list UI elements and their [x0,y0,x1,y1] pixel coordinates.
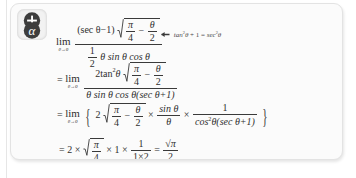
one-value-4: 1 [114,144,119,155]
page-root: α lim θ→0 (sec θ−1) [0,0,356,178]
pi-over-4-3: π 4 [112,105,121,128]
radical-2: π 4 − θ 2 [123,62,166,87]
open-bracket-3: { [85,106,90,126]
equals-sign-2: = [57,74,63,85]
one-over-cos-3: 1 cos2θ(sec θ+1) [193,103,257,127]
theta-over-2-3: θ 2 [134,105,143,128]
cos-denominator-3: cos2θ(sec θ+1) [193,115,257,127]
radical-hook-icon-1 [117,18,124,43]
radical-4: π 4 [83,138,104,160]
theta-den-1: 2 [148,32,157,43]
alpha-plus-badge-icon[interactable]: α [17,9,47,40]
coefficient-3: 2 [95,109,100,120]
identity-lhs-var: θ [185,31,188,39]
identity-annotation: tan2θ + 1 = sec2θ [161,31,221,40]
lim-word-3: lim [65,108,80,119]
left-margin-rule [6,0,7,178]
radicand-minus-3: − [124,110,130,121]
pi-num-2: π [132,64,141,76]
main-fraction-2: 2tan2θ π 4 − [84,62,176,100]
lim-subscript-1: θ→0 [56,47,71,52]
denominator-trig-1: θ sin θ cos θ [100,51,150,62]
equals-sign-3: = [57,109,63,120]
theta-den-2: 2 [154,76,163,87]
theta-num-2: θ [154,64,163,76]
times-sign-3a: × [148,109,154,120]
coefficient-4: 2 [67,144,72,155]
identity-middle: + 1 = [190,31,205,39]
cos-word-3: cos [195,117,208,128]
times-sign-4b: × [106,144,112,155]
radicand-1: π 4 − θ 2 [124,18,160,43]
lim-subscript-3: θ→0 [65,119,80,124]
radical-hook-icon-2 [123,62,130,87]
times-sign-4c: × [122,144,128,155]
radical-3: π 4 − θ 2 [103,103,146,128]
radicand-2: π 4 − θ 2 [130,62,166,87]
pi-den-2: 4 [132,76,141,87]
result-fraction-4: √π 2 [163,139,178,160]
pi-den-1: 4 [126,32,135,43]
times-sign-3b: × [184,109,190,120]
equation-line-4: = 2 × π 4 × 1 × 1 [59,138,179,160]
pi-over-4-2: π 4 [132,64,141,87]
theta-num-3: θ [134,105,143,117]
radicand-minus-2: − [145,69,151,80]
equation-line-2: = lim θ→0 2tan2θ [57,62,178,100]
cos-rest-3: θ(sec θ+1) [211,117,255,128]
equals-sign-4: = [59,144,65,155]
solution-card: α lim θ→0 (sec θ−1) [10,3,343,160]
theta-den-3: 2 [134,117,143,128]
frac-num-4: 1 [131,139,151,151]
times-sign-4a: × [75,144,81,155]
pi-num-1: π [126,20,135,32]
limit-operator-1: lim θ→0 [56,36,71,52]
sin-theta-num-3: sin θ [157,104,180,116]
svg-text:α: α [29,23,37,38]
limit-operator-3: lim θ→0 [65,108,80,124]
one-over-one-times-two-4: 1 1×2 [131,139,151,160]
lim-word-1: lim [56,36,71,47]
frac-den-4: 1×2 [131,151,151,160]
numerator-2: 2tan2θ π 4 − [84,62,176,89]
theta-over-2-1: θ 2 [148,20,157,43]
pi-over-4-4: π 4 [92,140,101,160]
one-num-3: 1 [193,103,257,115]
theta-over-2-2: θ 2 [154,64,163,87]
theta-num-1: θ [148,20,157,32]
close-bracket-3: } [263,106,268,126]
limit-operator-2: lim θ→0 [65,73,80,89]
denominator-2: θ sin θ cos θ(sec θ+1) [84,89,176,100]
arrow-left-icon [161,31,170,40]
equation-line-3: = lim θ→0 { 2 π 4 − [57,103,270,128]
two-tan-2: 2tan [95,68,112,79]
radicand-4: π 4 [90,138,104,160]
radicand-3: π 4 − θ 2 [110,103,146,128]
lim-word-2: lim [65,73,80,84]
radical-hook-icon-4 [83,138,90,160]
equals-sign-4b: = [154,144,160,155]
result-den-4: 2 [163,151,178,160]
pi-num-4: π [92,140,101,152]
radicand-minus-1: − [139,25,145,36]
radical-hook-icon-3 [103,103,110,128]
pi-over-4-1: π 4 [126,20,135,43]
theta-den-f2-3: θ [157,116,180,127]
identity-rhs-var: θ [218,31,221,39]
sec-term-1: (sec θ−1) [77,24,114,35]
result-num-4: √π [163,139,178,151]
sin-over-theta-3: sin θ θ [157,104,180,127]
lim-subscript-2: θ→0 [65,84,80,89]
identity-rhs-fn: sec [207,31,216,39]
pi-num-3: π [112,105,121,117]
identity-lhs-fn: tan [174,31,183,39]
numerator-1: (sec θ−1) π 4 − [75,18,162,45]
pi-den-3: 4 [112,117,121,128]
radical-1: π 4 − θ 2 [117,18,160,43]
half-num-1: 1 [88,46,97,58]
tan-var-2: θ [116,68,121,79]
pi-den-4: 4 [92,152,101,160]
